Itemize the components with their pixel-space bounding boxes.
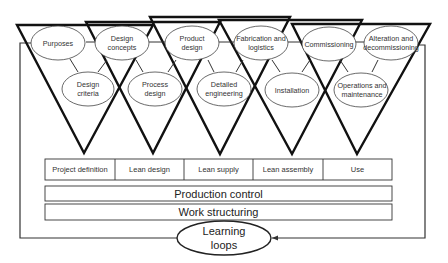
module-lean-supply: Lean supply (184, 159, 253, 180)
loop-arrow-icon (272, 236, 278, 241)
phase-installation: Installation (266, 80, 318, 100)
phase-operations-maintenance: Operations and maintenance (334, 80, 390, 100)
module-use: Use (323, 159, 392, 180)
phase-detailed-engineering: Detailed engineering (199, 79, 249, 99)
module-lean-design: Lean design (115, 159, 184, 180)
phase-alteration-decommissioning: Alteration and decommissioning (362, 33, 420, 53)
phase-product-design: Product design (170, 33, 214, 53)
learning-loops-label: Learning loops (196, 223, 252, 253)
phase-process-design: Process design (134, 79, 176, 99)
phase-commissioning: Commissioning (301, 34, 357, 54)
phase-design-criteria: Design criteria (68, 79, 108, 99)
phase-purposes: Purposes (33, 33, 83, 53)
phase-fabrication-logistics: Fabrication and logistics (234, 33, 288, 53)
work-structuring-label: Work structuring (45, 204, 392, 220)
module-project-definition: Project definition (52, 159, 108, 180)
production-control-label: Production control (45, 186, 392, 201)
module-lean-assembly: Lean assembly (253, 159, 323, 180)
phase-design-concepts: Design concepts (100, 33, 144, 53)
